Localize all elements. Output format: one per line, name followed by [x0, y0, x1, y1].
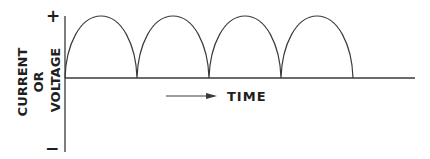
y-axis-label-line-1: CURRENT — [15, 47, 30, 116]
y-axis-label: CURRENT OR VOLTAGE — [15, 47, 63, 116]
waveform-diagram: + − CURRENT OR VOLTAGE TIME — [0, 0, 430, 159]
x-axis-label: TIME — [227, 89, 267, 104]
negative-marker: − — [45, 138, 59, 158]
positive-marker: + — [46, 6, 60, 26]
y-axis-label-line-2: OR — [31, 71, 46, 92]
y-axis-label-line-3: VOLTAGE — [48, 48, 63, 113]
waveform-curve — [65, 16, 353, 78]
time-arrow-icon — [166, 93, 217, 99]
